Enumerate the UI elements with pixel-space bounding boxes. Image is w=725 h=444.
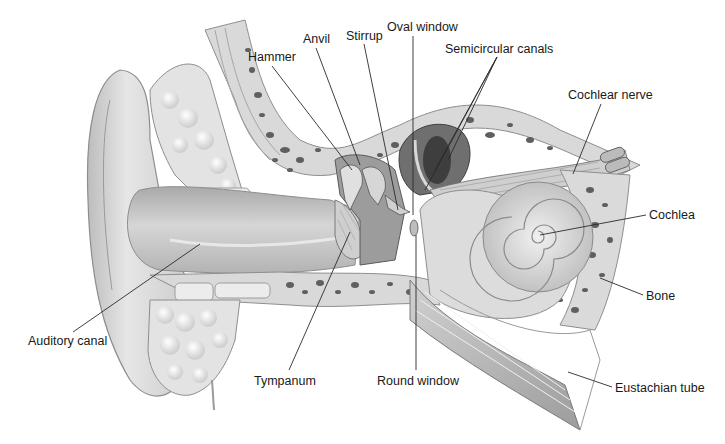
label-stirrup: Stirrup (346, 29, 383, 43)
auditory-canal-shape (127, 187, 360, 274)
label-hammer: Hammer (248, 50, 296, 64)
cochlea-shape (420, 182, 593, 319)
label-auditory-canal: Auditory canal (28, 334, 107, 348)
label-eustachian-tube: Eustachian tube (615, 381, 705, 395)
round-window-shape (410, 220, 418, 236)
label-bone: Bone (646, 289, 675, 303)
label-round-window: Round window (377, 374, 459, 388)
leader-eustachian-tube (568, 372, 612, 387)
label-cochlea: Cochlea (649, 208, 695, 222)
label-oval-window: Oval window (387, 20, 458, 34)
ear-anatomy-illustration (0, 0, 725, 444)
label-tympanum: Tympanum (254, 374, 316, 388)
label-semicircular-canals: Semicircular canals (445, 42, 553, 56)
label-anvil: Anvil (303, 32, 330, 46)
label-cochlear-nerve: Cochlear nerve (568, 88, 653, 102)
